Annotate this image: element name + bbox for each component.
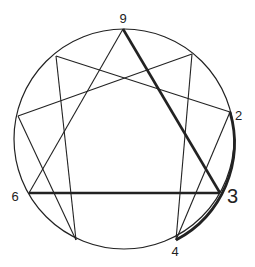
- line-9-3-bold: [123, 29, 220, 193]
- enneagram-circle: [14, 29, 234, 249]
- thin-lines: [18, 29, 230, 240]
- line-8-5: [56, 56, 76, 240]
- label-4: 4: [171, 244, 178, 259]
- label-3: 3: [227, 185, 238, 207]
- label-2: 2: [235, 108, 242, 123]
- line-7-5: [18, 116, 76, 240]
- label-9: 9: [119, 11, 126, 26]
- enneagram-diagram: 9 2 3 4 6: [0, 0, 255, 267]
- label-6: 6: [11, 189, 18, 204]
- line-1-4: [176, 54, 192, 240]
- bold-lines: [29, 29, 220, 193]
